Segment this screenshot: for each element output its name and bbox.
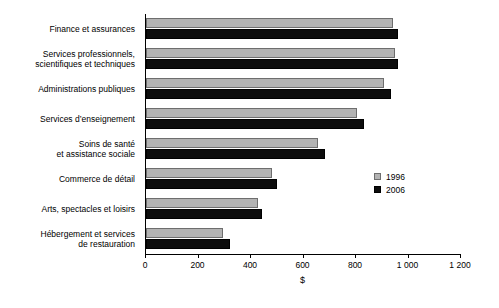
- bar-2006: [146, 29, 398, 39]
- x-axis-tick-label: 400: [220, 260, 280, 270]
- x-axis-tick: [303, 254, 304, 258]
- bar-2006: [146, 239, 230, 249]
- bar-group: [146, 107, 461, 131]
- bar-group: [146, 137, 461, 161]
- category-label: Services d’enseignement: [0, 114, 135, 125]
- x-axis-tick: [460, 254, 461, 258]
- bar-group: [146, 47, 461, 71]
- category-label: Services professionnels, scientifiques e…: [0, 49, 135, 70]
- legend-swatch-icon: [374, 186, 381, 193]
- bar-2006: [146, 179, 277, 189]
- legend-swatch-icon: [374, 173, 381, 180]
- x-axis-tick-label: 200: [168, 260, 228, 270]
- bar-1996: [146, 48, 395, 58]
- x-axis-tick-label: 800: [325, 260, 385, 270]
- chart-legend: 19962006: [374, 170, 405, 196]
- category-label: Commerce de détail: [0, 174, 135, 185]
- bar-2006: [146, 89, 391, 99]
- bar-1996: [146, 168, 272, 178]
- x-axis-tick: [145, 254, 146, 258]
- category-label: Administrations publiques: [0, 84, 135, 95]
- legend-label: 1996: [386, 172, 405, 182]
- legend-item: 2006: [374, 183, 405, 196]
- legend-item: 1996: [374, 170, 405, 183]
- category-label: Finance et assurances: [0, 24, 135, 35]
- x-axis-title: $: [145, 275, 460, 285]
- bar-1996: [146, 198, 258, 208]
- bar-group: [146, 197, 461, 221]
- x-axis-tick: [250, 254, 251, 258]
- x-axis-tick: [408, 254, 409, 258]
- bar-group: [146, 227, 461, 251]
- x-axis-tick-label: 600: [273, 260, 333, 270]
- x-axis-tick-label: 1 200: [430, 260, 490, 270]
- bar-1996: [146, 108, 357, 118]
- bar-2006: [146, 149, 325, 159]
- x-axis-tick-label: 1 000: [378, 260, 438, 270]
- x-axis-tick: [355, 254, 356, 258]
- bar-group: [146, 77, 461, 101]
- bar-group: [146, 167, 461, 191]
- category-label: Hébergement et services de restauration: [0, 229, 135, 250]
- category-label: Soins de santé et assistance sociale: [0, 139, 135, 160]
- plot-area: [145, 14, 461, 255]
- bar-group: [146, 17, 461, 41]
- bar-2006: [146, 119, 364, 129]
- x-axis-tick-label: 0: [115, 260, 175, 270]
- legend-label: 2006: [386, 185, 405, 195]
- category-axis-labels: Finance et assurancesServices profession…: [0, 14, 139, 254]
- bar-1996: [146, 138, 318, 148]
- bar-1996: [146, 228, 223, 238]
- bar-1996: [146, 18, 393, 28]
- bar-chart: Finance et assurancesServices profession…: [0, 0, 499, 308]
- bar-2006: [146, 59, 398, 69]
- bar-1996: [146, 78, 384, 88]
- x-axis-tick: [198, 254, 199, 258]
- bar-2006: [146, 209, 262, 219]
- category-label: Arts, spectacles et loisirs: [0, 204, 135, 215]
